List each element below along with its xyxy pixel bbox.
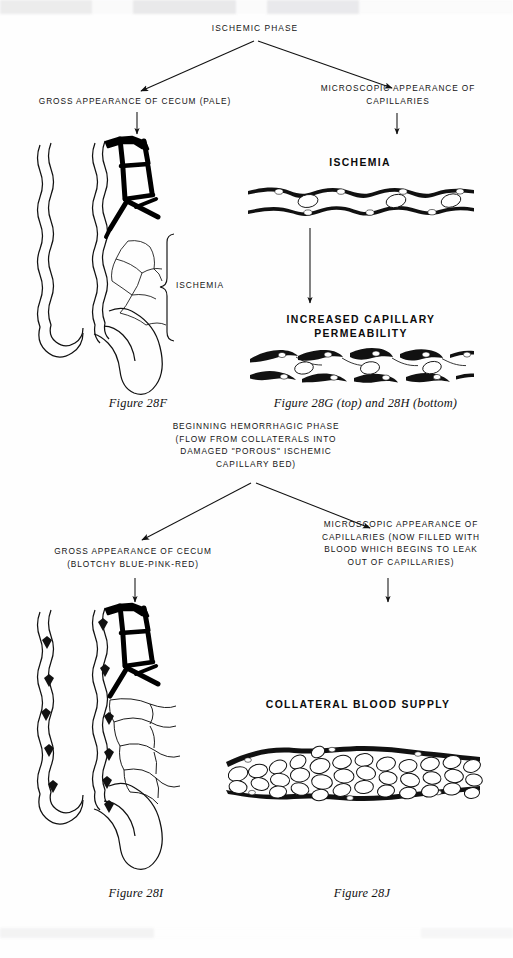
collateral-blood-supply-title: COLLATERAL BLOOD SUPPLY bbox=[258, 698, 458, 712]
figure-28i-caption: Figure 28I bbox=[56, 886, 216, 901]
scan-bleed-bottom bbox=[0, 928, 513, 938]
hemorrhagic-down-arrows bbox=[0, 0, 513, 620]
figure-28j-capillary-illustration bbox=[222, 740, 488, 802]
figure-28j-caption: Figure 28J bbox=[282, 886, 442, 901]
figure-28i-cecum-illustration bbox=[24, 600, 244, 868]
diagram-page: ISCHEMIC PHASE GROSS APPEARANCE OF CECUM… bbox=[0, 0, 513, 958]
